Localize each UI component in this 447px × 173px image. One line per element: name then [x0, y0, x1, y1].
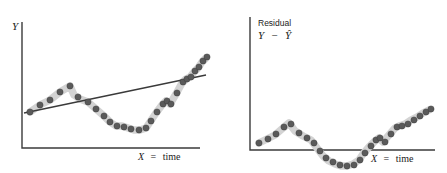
data-point [148, 118, 154, 124]
data-point [188, 74, 194, 80]
data-point [168, 101, 174, 107]
residual-plot-svg: Residual Y − Ŷ X = time [223, 0, 446, 173]
data-point [85, 99, 91, 105]
data-point [75, 94, 81, 100]
data-point [57, 89, 63, 95]
data-point [196, 64, 202, 70]
data-point [377, 135, 383, 141]
data-point [174, 90, 180, 96]
data-point [382, 139, 388, 145]
data-point [317, 148, 323, 154]
data-point [101, 113, 107, 119]
residual-label-line1: Residual [258, 18, 291, 28]
data-point [136, 127, 142, 133]
residual-label-line2: Y − Ŷ [258, 29, 293, 41]
data-point [337, 162, 343, 168]
residual-label-y: Y [258, 29, 266, 41]
residual-analysis-figure: Y X = time [0, 0, 447, 173]
data-point [93, 106, 99, 112]
data-point [362, 150, 368, 156]
residual-label-yhat: Ŷ [285, 29, 293, 41]
left-y-axis-label: Y [12, 20, 20, 32]
left-x-axis-label-var: X [137, 151, 145, 162]
data-point [67, 83, 73, 89]
right-x-axis-label-eq: = [384, 153, 390, 164]
data-point [405, 121, 411, 127]
left-x-axis-label-eq: = [151, 151, 157, 162]
right-x-axis-label: X = time [370, 153, 414, 164]
data-point [296, 130, 302, 136]
data-point [107, 119, 113, 125]
panel-residual-plot: Residual Y − Ŷ X = time [223, 0, 446, 173]
data-point [281, 124, 287, 130]
data-point [37, 102, 43, 108]
data-point [428, 106, 434, 112]
data-point [399, 123, 405, 129]
scatter-plot-svg: Y X = time [0, 0, 223, 173]
data-point [311, 140, 317, 146]
data-point [128, 126, 134, 132]
data-point [288, 121, 294, 127]
data-point [204, 54, 210, 60]
data-point [344, 163, 350, 169]
left-x-axis-label-unit: time [163, 151, 181, 162]
left-x-axis-label: X = time [137, 151, 181, 162]
right-x-axis-label-unit: time [396, 153, 414, 164]
data-point [114, 123, 120, 129]
data-point [121, 124, 127, 130]
data-point [351, 162, 357, 168]
data-point [304, 135, 310, 141]
data-point [265, 136, 271, 142]
data-point [273, 131, 279, 137]
data-point [27, 109, 33, 115]
data-point [368, 143, 374, 149]
data-point [154, 109, 160, 115]
right-x-axis-label-var: X [370, 153, 378, 164]
data-point [143, 125, 149, 131]
panel-scatter-with-trend: Y X = time [0, 0, 223, 173]
residual-label-minus: − [271, 29, 278, 41]
data-point [411, 117, 417, 123]
data-point [357, 157, 363, 163]
left-axes [22, 22, 200, 148]
data-point [330, 159, 336, 165]
data-point [417, 113, 423, 119]
data-point [256, 140, 262, 146]
data-point [323, 155, 329, 161]
data-point [47, 97, 53, 103]
data-point [388, 131, 394, 137]
